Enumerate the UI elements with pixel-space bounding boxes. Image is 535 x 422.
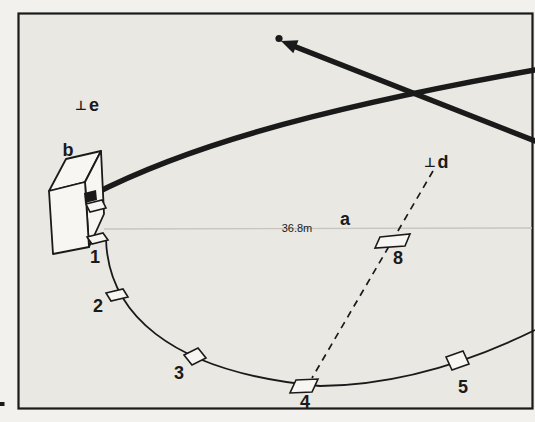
label-station-1: 1: [90, 247, 100, 267]
label-point-d: d: [438, 152, 449, 172]
hut-front-face: [49, 182, 89, 254]
label-hut-b: b: [63, 140, 74, 160]
label-station-3: 3: [174, 363, 184, 383]
label-station-5: 5: [458, 377, 468, 397]
cropped-margin-mark: [0, 402, 5, 406]
perpendicular-symbol-d: ⊥: [424, 155, 436, 170]
scanned-figure: b ⊥ e ⊥ d a 36.8m 1 2 3 4 5 8: [0, 0, 535, 422]
label-point-e: e: [89, 95, 99, 115]
label-distance-line-a: a: [340, 209, 351, 229]
label-station-8: 8: [393, 248, 403, 268]
label-distance-value: 36.8m: [282, 222, 313, 234]
projectile-dot: [275, 35, 282, 42]
label-station-4: 4: [300, 392, 310, 412]
label-station-2: 2: [93, 296, 103, 316]
perpendicular-symbol-e: ⊥: [75, 98, 87, 113]
